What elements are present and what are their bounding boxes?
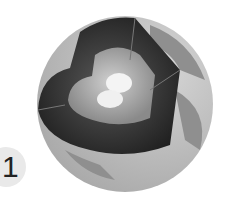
earth-cutaway-diagram	[0, 0, 227, 208]
